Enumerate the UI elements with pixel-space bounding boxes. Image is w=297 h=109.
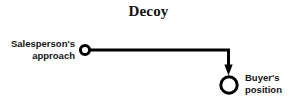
node-salesperson-marker (80, 45, 89, 54)
salesperson-label-line-1: Salesperson's (0, 38, 75, 50)
node-buyer-marker (221, 77, 237, 93)
node-buyer-label: Buyer's position (245, 72, 297, 95)
buyer-label-line-1: Buyer's (245, 72, 297, 84)
buyer-label-line-2: position (245, 84, 297, 96)
arrowhead-icon (224, 65, 232, 76)
decoy-diagram: Decoy Salesperson's approach Buyer's pos… (0, 0, 297, 109)
connector-line (90, 50, 229, 67)
node-salesperson-label: Salesperson's approach (0, 38, 75, 61)
salesperson-label-line-2: approach (0, 50, 75, 62)
